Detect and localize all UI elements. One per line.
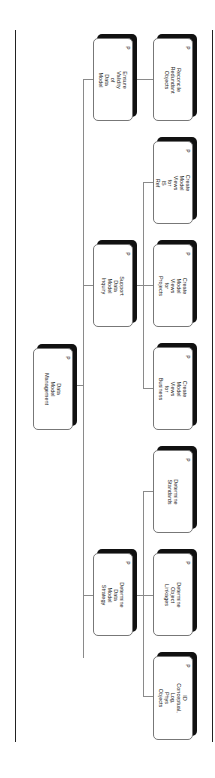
process-marker: P	[64, 356, 70, 359]
node-determine-data-model-strategy[interactable]: Determine Data Model Strategy P	[93, 553, 133, 636]
branch3-spine	[143, 491, 144, 696]
node-label: Create Model Views for IS Ref	[155, 174, 191, 191]
process-marker: P	[184, 664, 190, 667]
process-marker: P	[124, 46, 130, 49]
left-frame-line	[15, 30, 16, 742]
node-label: Data Model Management	[44, 373, 62, 405]
process-marker: P	[184, 46, 190, 49]
node-create-views-is-ref[interactable]: Create Model Views for IS Ref P	[153, 141, 193, 224]
branch2-child3-connector	[143, 388, 153, 389]
process-marker: P	[124, 561, 130, 564]
process-marker: P	[184, 561, 190, 564]
node-reconcile-redundant-objects[interactable]: Reconcile Redundant Objects P	[153, 38, 193, 121]
branch2-child2-connector	[143, 285, 153, 286]
node-label: Ensure Validity of Data Model	[98, 71, 128, 88]
node-determine-object-linkages[interactable]: Determine Object Linkages P	[153, 553, 193, 636]
node-label: Create Model Views for Business	[158, 377, 188, 399]
node-label: Reconcile Redundant Objects	[164, 66, 182, 93]
branch2-connector	[83, 285, 93, 286]
process-marker: P	[124, 252, 130, 255]
right-frame-line	[212, 30, 213, 742]
branch3-child2-connector	[143, 595, 153, 596]
node-id-conceptual-objects[interactable]: ID Conceptual, Log, Phys Objects P	[153, 656, 193, 740]
branch3-child1-connector	[143, 491, 153, 492]
node-ensure-validity[interactable]: Ensure Validity of Data Model P	[93, 38, 133, 121]
branch3-connector	[83, 595, 93, 596]
node-label: Determine Object Linkages	[164, 582, 182, 607]
branch3-child3-connector	[143, 696, 153, 697]
node-determine-standards[interactable]: Determine Standards P	[153, 450, 193, 533]
branch1-connector	[83, 79, 93, 80]
node-label: Determine Data Model Strategy	[101, 582, 125, 607]
process-marker: P	[184, 355, 190, 358]
node-create-views-projects[interactable]: Create Model Views for Projects P	[153, 244, 193, 327]
node-create-views-business[interactable]: Create Model Views for Business P	[153, 347, 193, 430]
node-data-model-management[interactable]: Data Model Management P	[33, 348, 73, 430]
level1-spine	[83, 79, 84, 658]
branch2-child1-connector	[143, 182, 153, 183]
process-marker: P	[184, 458, 190, 461]
process-marker: P	[184, 149, 190, 152]
process-marker: P	[184, 252, 190, 255]
node-label: ID Conceptual, Log, Phys Objects	[158, 683, 188, 712]
node-support-data-model-inquiry[interactable]: Support Data Model Inquiry P	[93, 244, 133, 327]
node-label: Create Model Views for Projects	[158, 276, 188, 296]
node-label: Support Data Model Inquiry	[101, 276, 125, 295]
node-label: Determine Standards	[167, 479, 179, 504]
